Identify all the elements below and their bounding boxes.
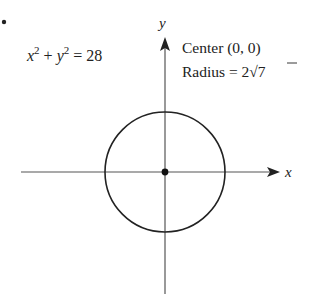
center-label: Center (0, 0) [182,39,261,57]
x-axis-label: x [284,164,292,180]
bullet-marker [2,20,6,24]
center-point [162,169,169,176]
circle-equation: x2 + y2 = 28 [26,44,102,65]
radius-label: Radius = 2√7 [182,63,266,80]
y-axis-label: y [157,15,166,31]
circle-diagram: x y x2 + y2 = 28 Center (0, 0) Radius = … [0,0,309,294]
